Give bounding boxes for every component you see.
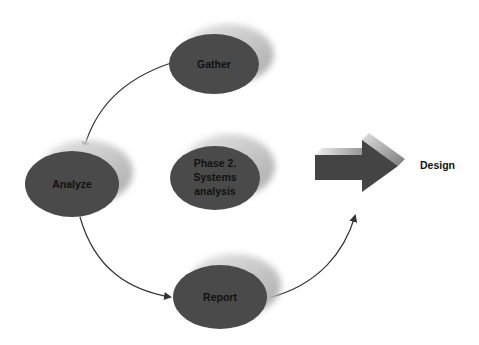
cycle-diagram: Gather Analyze Phase 2. Systems analysis… — [0, 0, 479, 345]
node-label-phase-line2: Systems — [193, 171, 236, 183]
connector-analyze-to-report — [80, 217, 170, 297]
connector-report-to-design — [268, 216, 355, 298]
node-label-phase-line3: analysis — [194, 185, 236, 197]
node-label-phase-line1: Phase 2. — [194, 157, 237, 169]
node-label-report: Report — [203, 291, 237, 303]
output-label-design: Design — [420, 159, 455, 171]
node-report: Report — [173, 254, 281, 329]
connector-gather-to-analyze — [84, 63, 171, 148]
node-analyze: Analyze — [25, 140, 133, 217]
right-block-arrow-icon — [315, 133, 405, 192]
node-gather: Gather — [169, 24, 274, 94]
node-label-analyze: Analyze — [52, 178, 92, 190]
node-phase: Phase 2. Systems analysis — [170, 134, 275, 210]
node-label-gather: Gather — [197, 58, 231, 70]
